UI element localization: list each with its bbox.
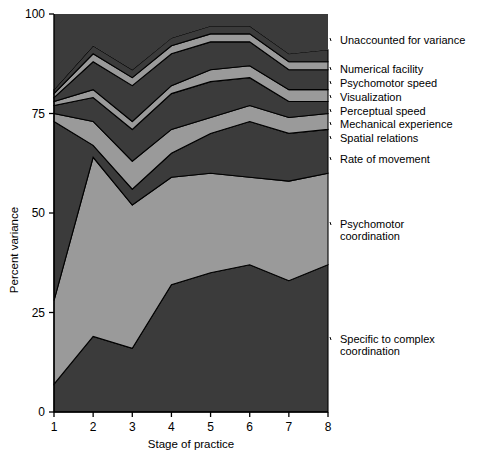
y-tick-label: 25 — [32, 306, 46, 320]
x-tick-label: 4 — [168, 420, 175, 434]
x-tick-label: 5 — [207, 420, 214, 434]
chart-figure: 0255075100 12345678 Unaccounted for vari… — [0, 0, 480, 455]
y-tick-label: 75 — [32, 107, 46, 121]
legend-label: Spatial relations — [340, 132, 419, 144]
x-tick-label: 2 — [90, 420, 97, 434]
x-tick-label: 7 — [286, 420, 293, 434]
x-axis-title: Stage of practice — [148, 438, 234, 450]
legend-label: Visualization — [340, 91, 402, 103]
legend-label: Perceptual speed — [340, 105, 426, 117]
legend-label: Mechanical experience — [340, 118, 453, 130]
legend-label: Psychomotor speed — [340, 77, 437, 89]
legend-label: Numerical facility — [340, 63, 424, 75]
x-tick-label: 1 — [51, 420, 58, 434]
x-tick-label: 8 — [325, 420, 332, 434]
y-axis-title: Percent variance — [8, 207, 20, 293]
y-tick-label: 50 — [32, 206, 46, 220]
x-tick-label: 6 — [246, 420, 253, 434]
legend-label: Unaccounted for variance — [340, 34, 465, 46]
stacked-area-chart: 0255075100 12345678 Unaccounted for vari… — [0, 0, 480, 455]
y-tick-label: 0 — [38, 405, 45, 419]
legend-label: Rate of movement — [340, 153, 430, 165]
area-bands — [54, 14, 328, 412]
legend-label: Psychomotorcoordination — [340, 218, 405, 242]
y-tick-label: 100 — [25, 7, 45, 21]
x-tick-label: 3 — [129, 420, 136, 434]
